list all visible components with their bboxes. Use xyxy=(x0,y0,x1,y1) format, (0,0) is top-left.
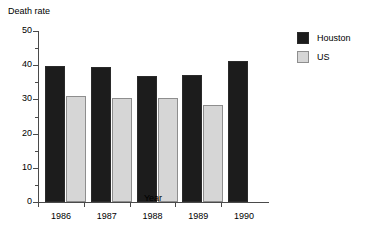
bar-us-1989 xyxy=(203,105,223,202)
legend-label-us: US xyxy=(317,52,330,62)
y-tick-30 xyxy=(33,99,38,100)
bar-houston-1988 xyxy=(137,76,157,202)
y-tick-minor-45 xyxy=(35,48,38,49)
y-tick-20 xyxy=(33,134,38,135)
y-tick-minor-15 xyxy=(35,151,38,152)
y-tick-minor-5 xyxy=(35,185,38,186)
y-tick-label-40: 40 xyxy=(10,60,32,69)
bar-houston-1989 xyxy=(182,75,202,202)
y-tick-label-10: 10 xyxy=(10,163,32,172)
y-tick-50 xyxy=(33,31,38,32)
x-tick-label-1987: 1987 xyxy=(84,211,130,221)
us-swatch-icon xyxy=(297,51,309,63)
y-axis-tick-labels: 01020304050 xyxy=(8,31,32,202)
y-tick-label-50: 50 xyxy=(10,26,32,35)
x-tick-label-1989: 1989 xyxy=(175,211,221,221)
bar-houston-1990 xyxy=(228,61,248,202)
legend-item-us: US xyxy=(297,49,351,64)
bar-houston-1986 xyxy=(45,66,65,202)
y-tick-label-0: 0 xyxy=(10,197,32,206)
bar-chart: Death rate 01020304050 19861987198819891… xyxy=(0,0,369,243)
x-tick-label-1988: 1988 xyxy=(130,211,176,221)
bar-us-1986 xyxy=(66,96,86,202)
y-tick-label-20: 20 xyxy=(10,129,32,138)
houston-swatch-icon xyxy=(297,32,309,44)
bar-houston-1987 xyxy=(91,67,111,202)
y-axis-label: Death rate xyxy=(8,6,50,17)
x-axis-label: Year xyxy=(38,193,268,203)
y-tick-minor-35 xyxy=(35,82,38,83)
y-tick-minor-25 xyxy=(35,117,38,118)
legend: Houston US xyxy=(297,30,351,68)
x-tick-label-1990: 1990 xyxy=(221,211,267,221)
legend-item-houston: Houston xyxy=(297,30,351,45)
y-tick-label-30: 30 xyxy=(10,94,32,103)
y-tick-10 xyxy=(33,168,38,169)
x-tick-label-1986: 1986 xyxy=(38,211,84,221)
bar-us-1988 xyxy=(158,98,178,202)
legend-label-houston: Houston xyxy=(317,33,351,43)
y-tick-40 xyxy=(33,65,38,66)
plot-area: 01020304050 19861987198819891990 xyxy=(38,31,268,202)
bars-layer xyxy=(39,31,268,202)
bar-us-1987 xyxy=(112,98,132,202)
